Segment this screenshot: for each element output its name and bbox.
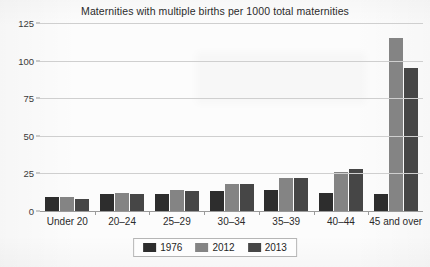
legend-item-2013[interactable]: 2013 <box>248 242 287 253</box>
bar-2013-20–24[interactable] <box>130 194 144 211</box>
legend-item-2012[interactable]: 2012 <box>195 242 234 253</box>
bar-2012-25–29[interactable] <box>170 190 184 211</box>
bar-1976-40–44[interactable] <box>319 193 333 211</box>
legend-swatch-2013 <box>248 243 261 252</box>
bar-1976-35–39[interactable] <box>264 190 278 211</box>
legend-label-2013: 2013 <box>265 242 287 253</box>
bar-2012-40–44[interactable] <box>334 172 348 211</box>
legend-item-1976[interactable]: 1976 <box>143 242 182 253</box>
bar-chart: Maternities with multiple births per 100… <box>0 0 430 267</box>
y-tick-mark-125 <box>36 23 40 24</box>
chart-legend: 197620122013 <box>133 238 297 257</box>
bar-group <box>149 23 204 211</box>
x-axis-label: 20–24 <box>95 216 150 227</box>
bar-2012-45-and-over[interactable] <box>389 38 403 211</box>
bar-2013-45-and-over[interactable] <box>404 68 418 211</box>
bar-1976-25–29[interactable] <box>155 194 169 211</box>
bar-group <box>314 23 369 211</box>
legend-label-1976: 1976 <box>160 242 182 253</box>
y-tick-label-100: 100 <box>0 55 34 66</box>
gridline-50 <box>40 136 423 137</box>
bar-2012-under-20[interactable] <box>60 197 74 211</box>
legend-swatch-1976 <box>143 243 156 252</box>
y-tick-mark-50 <box>36 135 40 136</box>
legend-label-2012: 2012 <box>212 242 234 253</box>
y-tick-label-50: 50 <box>0 130 34 141</box>
bar-1976-30–34[interactable] <box>210 191 224 211</box>
bar-group <box>204 23 259 211</box>
gridline-0 <box>40 211 423 212</box>
bar-2013-30–34[interactable] <box>240 184 254 211</box>
gridline-75 <box>40 98 423 99</box>
y-tick-mark-0 <box>36 211 40 212</box>
bar-group <box>40 23 95 211</box>
bar-1976-20–24[interactable] <box>100 194 114 211</box>
chart-title: Maternities with multiple births per 100… <box>0 5 430 17</box>
x-axis-labels: Under 2020–2425–2930–3435–3940–4445 and … <box>40 216 423 227</box>
bar-2013-25–29[interactable] <box>185 191 199 211</box>
y-tick-mark-75 <box>36 98 40 99</box>
bar-group <box>259 23 314 211</box>
x-axis-label: Under 20 <box>40 216 95 227</box>
y-tick-mark-100 <box>36 60 40 61</box>
bar-groups <box>40 23 423 211</box>
gridline-100 <box>40 61 423 62</box>
bar-2013-35–39[interactable] <box>294 178 308 211</box>
y-tick-label-0: 0 <box>0 206 34 217</box>
x-axis-label: 40–44 <box>314 216 369 227</box>
x-axis-label: 25–29 <box>149 216 204 227</box>
legend-swatch-2012 <box>195 243 208 252</box>
bar-1976-under-20[interactable] <box>45 197 59 211</box>
bar-1976-45-and-over[interactable] <box>374 194 388 211</box>
bar-group <box>368 23 423 211</box>
y-tick-mark-25 <box>36 173 40 174</box>
bar-2013-under-20[interactable] <box>75 199 89 211</box>
x-axis-label: 45 and over <box>368 216 423 227</box>
x-axis-label: 30–34 <box>204 216 259 227</box>
y-tick-label-25: 25 <box>0 168 34 179</box>
bar-2012-35–39[interactable] <box>279 178 293 211</box>
plot-area <box>40 23 423 211</box>
bar-2013-40–44[interactable] <box>349 169 363 211</box>
bar-group <box>95 23 150 211</box>
bar-2012-30–34[interactable] <box>225 184 239 211</box>
y-tick-label-125: 125 <box>0 18 34 29</box>
gridline-125 <box>40 23 423 24</box>
x-axis-label: 35–39 <box>259 216 314 227</box>
bar-2012-20–24[interactable] <box>115 193 129 211</box>
gridline-25 <box>40 173 423 174</box>
y-tick-label-75: 75 <box>0 93 34 104</box>
